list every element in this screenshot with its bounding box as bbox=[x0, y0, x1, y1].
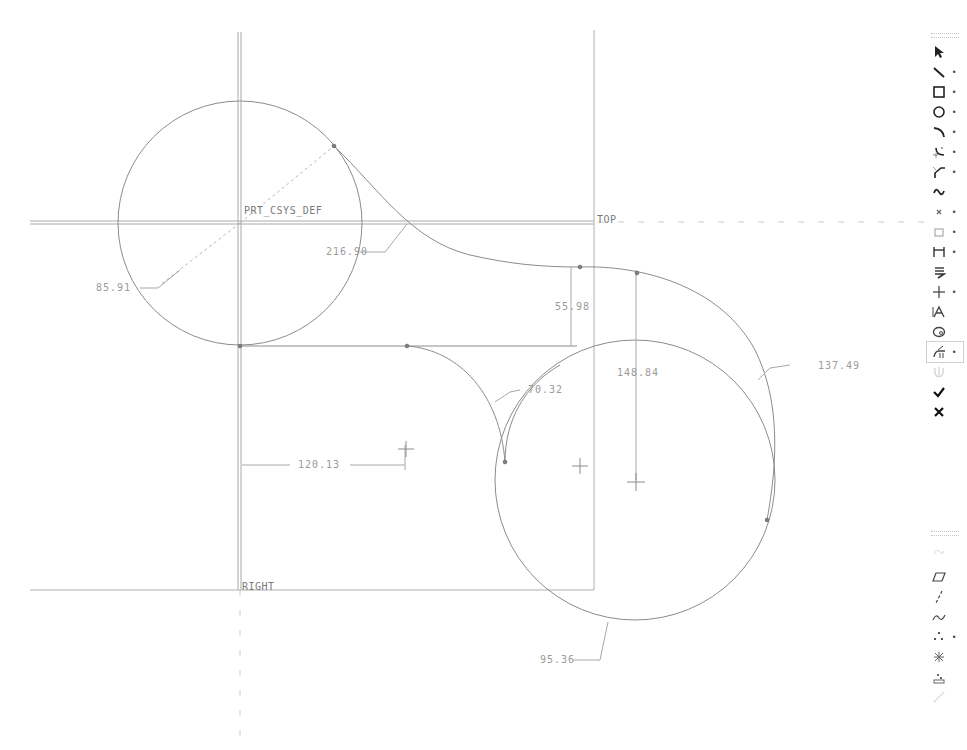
tool-mirror[interactable] bbox=[927, 362, 963, 382]
tool-analysis[interactable] bbox=[927, 667, 963, 687]
tool-modify[interactable] bbox=[927, 262, 963, 282]
tool-datum-curve-sketch[interactable] bbox=[927, 542, 963, 562]
text-icon bbox=[929, 302, 949, 322]
flyout-arrow-icon[interactable]: • bbox=[951, 68, 957, 77]
tool-text[interactable] bbox=[927, 302, 963, 322]
dimension-55-98[interactable]: 55.98 bbox=[555, 301, 590, 313]
chamfer-icon bbox=[929, 162, 949, 182]
tool-line[interactable]: • bbox=[927, 62, 963, 82]
line-icon bbox=[929, 62, 949, 82]
arc-fillet-2 bbox=[505, 365, 560, 462]
tool-datum-axis[interactable] bbox=[927, 587, 963, 607]
flyout-arrow-icon[interactable]: • bbox=[951, 128, 957, 137]
flyout-arrow-icon[interactable]: • bbox=[951, 348, 957, 357]
palette-icon bbox=[929, 322, 949, 342]
dimension-216-90[interactable]: 216.90 bbox=[326, 246, 368, 258]
analysis-icon bbox=[929, 667, 949, 687]
trim-icon bbox=[929, 342, 949, 362]
spline-icon bbox=[929, 182, 949, 202]
right-plane-label: RIGHT bbox=[242, 581, 275, 593]
datum-curve-icon bbox=[929, 607, 949, 627]
tool-spline[interactable] bbox=[927, 182, 963, 202]
tool-datum-other[interactable] bbox=[927, 687, 963, 707]
arc-fillet bbox=[407, 346, 505, 462]
top-plane-label: TOP bbox=[597, 214, 617, 226]
toolbar-grip-datum[interactable] bbox=[931, 531, 959, 536]
point-icon bbox=[929, 202, 949, 222]
tool-rectangle[interactable]: • bbox=[927, 82, 963, 102]
arc-upper bbox=[334, 146, 580, 267]
tool-constraints[interactable]: • bbox=[927, 282, 963, 302]
flyout-arrow-icon[interactable]: • bbox=[951, 108, 957, 117]
sketch-canvas[interactable]: PRT_CSYS_DEF TOP RIGHT 216.90 85.91 55.9… bbox=[0, 0, 925, 750]
datum-axis-icon bbox=[929, 587, 949, 607]
tool-datum-plane[interactable] bbox=[927, 567, 963, 587]
constraints-icon bbox=[929, 282, 949, 302]
datum-top-plane bbox=[30, 221, 925, 224]
coordinate-system-icon bbox=[929, 647, 949, 667]
select-arrow-icon bbox=[929, 42, 949, 62]
sketch-curve-icon bbox=[929, 542, 949, 562]
flyout-arrow-icon[interactable]: • bbox=[951, 148, 957, 157]
dimension-85-91[interactable]: 85.91 bbox=[96, 282, 131, 294]
tool-fillet[interactable]: • bbox=[927, 142, 963, 162]
flyout-arrow-icon[interactable]: • bbox=[951, 208, 957, 217]
datum-point-icon bbox=[929, 627, 949, 647]
modify-icon bbox=[929, 262, 949, 282]
toolbar-grip-top[interactable] bbox=[931, 33, 959, 38]
tool-datum-curve[interactable] bbox=[927, 607, 963, 627]
flyout-arrow-icon[interactable]: • bbox=[951, 168, 957, 177]
flyout-arrow-icon[interactable]: • bbox=[951, 288, 957, 297]
tool-arc[interactable]: • bbox=[927, 122, 963, 142]
dimension-120-13[interactable]: 120.13 bbox=[298, 459, 340, 471]
tool-dimension[interactable]: • bbox=[927, 242, 963, 262]
tool-csys[interactable] bbox=[927, 647, 963, 667]
rectangle-icon bbox=[929, 82, 949, 102]
sketcher-toolbar: • • • • • • • • • • bbox=[925, 0, 967, 750]
flyout-arrow-icon[interactable]: • bbox=[951, 248, 957, 257]
use-edge-icon bbox=[929, 222, 949, 242]
center-marks bbox=[398, 441, 645, 491]
tool-datum-point[interactable]: • bbox=[927, 627, 963, 647]
dimension-137-49[interactable]: 137.49 bbox=[818, 360, 860, 372]
tool-trim[interactable]: • bbox=[927, 342, 963, 362]
dimension-icon bbox=[929, 242, 949, 262]
dimension-148-84[interactable]: 148.84 bbox=[617, 367, 659, 379]
dimension-95-36[interactable]: 95.36 bbox=[540, 654, 575, 666]
close-icon bbox=[929, 402, 949, 422]
fillet-icon bbox=[929, 142, 949, 162]
datum-right-plane bbox=[238, 32, 241, 750]
flyout-arrow-icon[interactable]: • bbox=[951, 228, 957, 237]
circle-icon bbox=[929, 102, 949, 122]
tool-cancel[interactable] bbox=[927, 402, 963, 422]
flyout-arrow-icon[interactable]: • bbox=[951, 633, 957, 642]
csys-label: PRT_CSYS_DEF bbox=[244, 205, 322, 217]
dimension-70-32[interactable]: 70.32 bbox=[528, 384, 563, 396]
tool-circle[interactable]: • bbox=[927, 102, 963, 122]
tool-select[interactable] bbox=[927, 42, 963, 62]
tool-point[interactable]: • bbox=[927, 202, 963, 222]
sketch-geometry[interactable] bbox=[0, 0, 925, 750]
tool-accept[interactable] bbox=[927, 382, 963, 402]
arc-icon bbox=[929, 122, 949, 142]
datum-frame bbox=[30, 30, 594, 590]
datum-plane-icon bbox=[929, 567, 949, 587]
sketch-entities bbox=[118, 101, 775, 620]
tool-chamfer[interactable]: • bbox=[927, 162, 963, 182]
datum-misc-icon bbox=[929, 687, 949, 707]
tool-palette[interactable] bbox=[927, 322, 963, 342]
tool-use-edge[interactable]: • bbox=[927, 222, 963, 242]
flyout-arrow-icon[interactable]: • bbox=[951, 88, 957, 97]
mirror-icon bbox=[929, 362, 949, 382]
checkmark-icon bbox=[929, 382, 949, 402]
